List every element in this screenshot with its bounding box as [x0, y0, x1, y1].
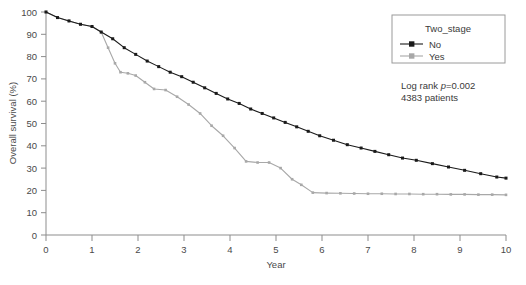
- legend-label-no: No: [429, 39, 441, 50]
- legend-marker-yes: [409, 53, 414, 58]
- data-point-marker: [107, 46, 110, 49]
- x-tick-label: 0: [43, 244, 48, 255]
- data-point-marker: [505, 194, 508, 197]
- data-point-marker: [373, 150, 376, 153]
- y-tick-label: 30: [26, 163, 37, 174]
- data-point-marker: [199, 112, 202, 115]
- data-point-marker: [346, 143, 349, 146]
- data-point-marker: [164, 89, 167, 92]
- data-point-marker: [332, 139, 335, 142]
- data-point-marker: [312, 191, 315, 194]
- data-point-marker: [157, 65, 160, 68]
- data-point-marker: [477, 193, 480, 196]
- x-tick-label: 7: [365, 244, 370, 255]
- data-point-marker: [463, 193, 466, 196]
- annotations: Log rank p=0.002 4383 patients: [401, 80, 475, 103]
- data-point-marker: [415, 159, 418, 162]
- y-tick-label: 40: [26, 140, 37, 151]
- data-point-marker: [111, 37, 114, 40]
- data-point-marker: [45, 11, 48, 14]
- x-axis-title: Year: [266, 259, 285, 270]
- data-point-marker: [318, 134, 321, 137]
- data-point-marker: [134, 74, 137, 77]
- data-point-marker: [479, 172, 482, 175]
- x-tick-label: 8: [411, 244, 416, 255]
- data-point-marker: [401, 157, 404, 160]
- data-point-marker: [325, 192, 328, 195]
- data-point-marker: [291, 178, 294, 181]
- data-point-marker: [127, 72, 130, 75]
- data-point-marker: [450, 193, 453, 196]
- data-point-marker: [68, 19, 71, 22]
- data-point-marker: [422, 193, 425, 196]
- data-point-marker: [192, 81, 195, 84]
- y-tick-label: 0: [32, 230, 37, 241]
- legend-title: Two_stage: [425, 23, 471, 34]
- legend: Two_stage No Yes: [392, 15, 505, 63]
- data-point-marker: [261, 112, 264, 115]
- data-point-marker: [491, 193, 494, 196]
- data-point-marker: [114, 62, 117, 65]
- y-axis-ticks: 0 10 20 30 40 50 60 70 80 90 100: [21, 7, 46, 241]
- data-point-marker: [353, 192, 356, 195]
- data-point-marker: [210, 124, 213, 127]
- data-point-marker: [436, 193, 439, 196]
- data-point-marker: [180, 75, 183, 78]
- data-point-marker: [339, 192, 342, 195]
- x-tick-label: 3: [181, 244, 186, 255]
- data-point-marker: [367, 192, 370, 195]
- x-tick-label: 5: [273, 244, 278, 255]
- data-point-marker: [123, 46, 126, 49]
- data-point-marker: [56, 16, 59, 19]
- y-tick-label: 70: [26, 73, 37, 84]
- data-point-marker: [360, 147, 363, 150]
- data-point-marker: [215, 92, 218, 95]
- x-tick-label: 9: [457, 244, 462, 255]
- data-point-marker: [203, 86, 206, 89]
- data-point-marker: [153, 88, 156, 91]
- data-point-marker: [134, 53, 137, 56]
- data-point-marker: [279, 167, 282, 170]
- legend-label-yes: Yes: [429, 51, 445, 62]
- y-tick-label: 50: [26, 118, 37, 129]
- data-point-marker: [233, 147, 236, 150]
- data-point-marker: [119, 71, 122, 74]
- data-point-marker: [381, 192, 384, 195]
- data-point-marker: [408, 193, 411, 196]
- y-tick-label: 100: [21, 7, 37, 18]
- data-point-marker: [272, 116, 275, 119]
- data-point-marker: [100, 31, 103, 34]
- legend-marker-no: [409, 41, 414, 46]
- x-tick-label: 4: [227, 244, 232, 255]
- x-axis-ticks: 0 1 2 3 4 5 6 7 8 9 10: [43, 235, 511, 255]
- data-point-marker: [431, 162, 434, 165]
- y-tick-label: 90: [26, 29, 37, 40]
- data-point-marker: [176, 95, 179, 98]
- data-point-marker: [79, 23, 82, 26]
- data-point-marker: [222, 134, 225, 137]
- data-point-marker: [300, 184, 303, 187]
- data-point-marker: [295, 125, 298, 128]
- data-point-marker: [387, 153, 390, 156]
- data-point-marker: [146, 60, 149, 63]
- data-point-marker: [226, 97, 229, 100]
- data-point-marker: [495, 176, 498, 179]
- y-tick-label: 80: [26, 51, 37, 62]
- y-tick-label: 10: [26, 207, 37, 218]
- data-point-marker: [169, 71, 172, 74]
- data-point-marker: [447, 165, 450, 168]
- data-point-marker: [256, 161, 259, 164]
- x-tick-label: 10: [501, 244, 512, 255]
- data-point-marker: [394, 193, 397, 196]
- x-tick-label: 2: [135, 244, 140, 255]
- patients-annotation: 4383 patients: [401, 92, 458, 103]
- data-point-marker: [268, 161, 271, 164]
- data-point-marker: [91, 25, 94, 28]
- data-point-marker: [284, 121, 287, 124]
- x-tick-label: 6: [319, 244, 324, 255]
- data-point-marker: [249, 108, 252, 111]
- x-tick-label: 1: [89, 244, 94, 255]
- data-point-marker: [245, 160, 248, 163]
- y-tick-label: 60: [26, 96, 37, 107]
- data-point-marker: [144, 81, 147, 84]
